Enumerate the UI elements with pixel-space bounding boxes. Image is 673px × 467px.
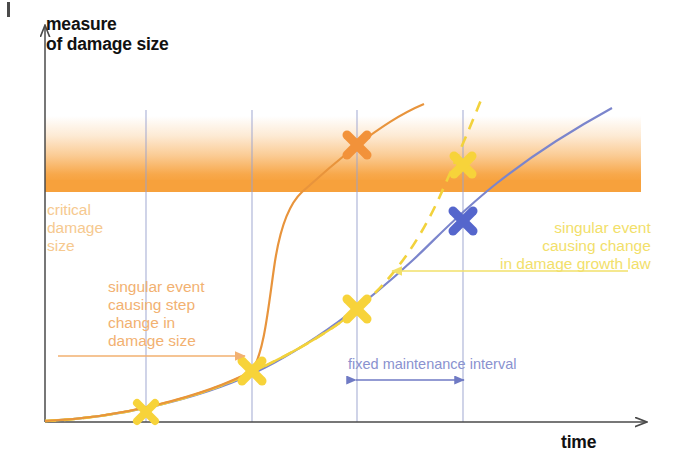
growth-law-annotation: singular event causing change in damage … — [500, 219, 651, 273]
x-axis-title: time — [561, 432, 596, 452]
damage-growth-diagram: measure of damage size time critical dam… — [0, 0, 673, 467]
step-change-annotation: singular event causing step change in da… — [108, 278, 205, 350]
maintenance-interval-label: fixed maintenance interval — [348, 356, 516, 373]
critical-damage-size-label: critical damage size — [47, 201, 103, 255]
y-axis-title: measure of damage size — [46, 14, 169, 55]
marker-g4-yellow — [454, 156, 472, 174]
